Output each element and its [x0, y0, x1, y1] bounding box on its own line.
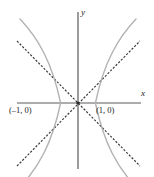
- vertex-label-right: (1, 0): [96, 106, 114, 115]
- hyperbola-figure: y x (–1, 0) (1, 0): [0, 0, 154, 177]
- y-axis-label: y: [81, 8, 85, 17]
- vertex-label-left: (–1, 0): [9, 106, 32, 115]
- plot-area: [0, 0, 154, 177]
- hyperbola-left-branch: [20, 19, 61, 177]
- origin-point: [76, 101, 79, 104]
- x-axis-label: x: [141, 89, 145, 98]
- hyperbola-right-branch: [95, 19, 136, 177]
